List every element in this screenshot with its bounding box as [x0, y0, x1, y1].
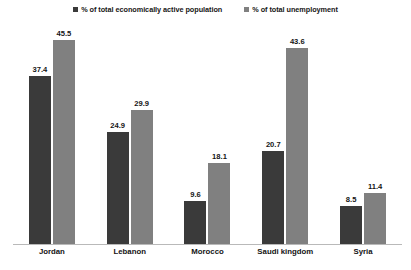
bar[interactable] [364, 193, 386, 244]
bar-column[interactable]: 45.5 [53, 24, 75, 244]
category-label: Morocco [169, 248, 247, 262]
bar-value-label: 24.9 [110, 122, 125, 130]
bar-value-label: 29.9 [134, 100, 149, 108]
bar-value-label: 9.6 [190, 191, 201, 199]
legend-item-series-1: % of total economically active populatio… [73, 6, 222, 13]
bar[interactable] [184, 201, 206, 244]
bar-column[interactable]: 8.5 [340, 24, 362, 244]
bar[interactable] [286, 48, 308, 244]
bar-column[interactable]: 29.9 [131, 24, 153, 244]
bar-group: 8.511.4 [324, 24, 402, 244]
chart-legend: % of total economically active populatio… [0, 3, 411, 17]
bar-groups: 37.445.524.929.99.618.120.743.68.511.4 [13, 24, 402, 244]
bar-group: 9.618.1 [169, 24, 247, 244]
bar-column[interactable]: 9.6 [184, 24, 206, 244]
category-label: Syria [324, 248, 402, 262]
category-label: Jordan [13, 248, 91, 262]
legend-swatch-series-2-icon [244, 7, 249, 12]
bar-column[interactable]: 11.4 [364, 24, 386, 244]
plot-area: 37.445.524.929.99.618.120.743.68.511.4 [0, 24, 411, 245]
bar-value-label: 11.4 [368, 183, 382, 191]
bar-value-label: 37.4 [33, 66, 48, 74]
bar-value-label: 18.1 [212, 153, 227, 161]
bar[interactable] [340, 206, 362, 244]
bar-column[interactable]: 37.4 [29, 24, 51, 244]
category-label: Lebanon [91, 248, 169, 262]
bar-group: 20.743.6 [246, 24, 324, 244]
legend-label-series-2: % of total unemployment [252, 6, 338, 13]
legend-label-series-1: % of total economically active populatio… [81, 6, 222, 13]
bar-column[interactable]: 43.6 [286, 24, 308, 244]
legend-swatch-series-1-icon [73, 7, 78, 12]
bar-value-label: 20.7 [266, 141, 281, 149]
bar-column[interactable]: 18.1 [208, 24, 230, 244]
legend-item-series-2: % of total unemployment [244, 6, 338, 13]
bar[interactable] [29, 76, 51, 244]
bar-column[interactable]: 24.9 [107, 24, 129, 244]
bar[interactable] [208, 163, 230, 244]
bar[interactable] [53, 40, 75, 244]
x-axis-line [13, 244, 402, 245]
category-axis-labels: JordanLebanonMoroccoSaudi kingdomSyria [13, 248, 402, 262]
bar-value-label: 45.5 [57, 30, 72, 38]
bar[interactable] [262, 151, 284, 244]
bar[interactable] [131, 110, 153, 244]
bar-value-label: 43.6 [290, 38, 305, 46]
bar-value-label: 8.5 [346, 196, 357, 204]
bar-group: 37.445.5 [13, 24, 91, 244]
bar-group: 24.929.9 [91, 24, 169, 244]
bar[interactable] [107, 132, 129, 244]
bar-column[interactable]: 20.7 [262, 24, 284, 244]
category-label: Saudi kingdom [246, 248, 324, 262]
grouped-bar-chart: % of total economically active populatio… [0, 0, 411, 270]
